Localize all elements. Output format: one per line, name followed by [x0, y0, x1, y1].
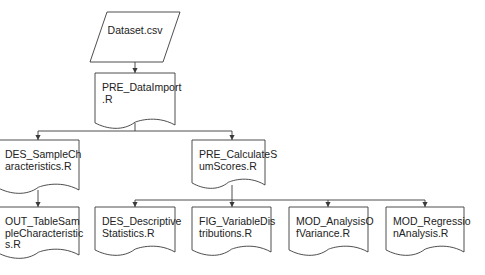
node-label-line: aracteristics.R [5, 160, 72, 172]
node-pre-dataimport: PRE_DataImport.R [95, 73, 181, 128]
arrowhead [422, 202, 427, 207]
arrowhead [35, 202, 40, 207]
node-fig-var: FIG_VariableDistributions.R [192, 207, 275, 255]
arrowhead [35, 135, 40, 140]
node-label-line: PRE_DataImport [102, 81, 181, 93]
node-label-line: OUT_TableSam [5, 215, 80, 227]
arrowhead [325, 202, 330, 207]
node-pre-calc: PRE_CalculateSumScores.R [192, 140, 277, 188]
node-label-line: Statistics.R [102, 227, 155, 239]
node-label-line: nAnalysis.R [393, 227, 449, 239]
node-label-line: .R [102, 93, 113, 105]
node-mod-anova: MOD_AnalysisOfVariance.R [289, 207, 374, 255]
connectors [35, 62, 427, 207]
node-label-line: MOD_AnalysisO [296, 215, 374, 227]
node-mod-reg: MOD_RegressionAnalysis.R [386, 207, 471, 255]
node-label-line: DES_Descriptive [102, 215, 182, 227]
nodes: Dataset.csvPRE_DataImport.RDES_SampleCha… [0, 12, 471, 258]
node-label-line: pleCharacteristic [5, 227, 83, 239]
node-label-line: PRE_CalculateS [199, 148, 277, 160]
node-label-line: FIG_VariableDis [199, 215, 275, 227]
arrowhead [229, 135, 234, 140]
flowchart: Dataset.csvPRE_DataImport.RDES_SampleCha… [0, 0, 485, 275]
node-des-desc: DES_DescriptiveStatistics.R [95, 207, 182, 255]
node-label: Dataset.csv [108, 24, 164, 36]
node-des-sample: DES_SampleCharacteristics.R [0, 140, 82, 193]
node-out-table: OUT_TableSampleCharacteristics.R [0, 207, 83, 258]
node-label-line: fVariance.R [296, 227, 350, 239]
node-label-line: umScores.R [199, 160, 257, 172]
parallelogram-shape [90, 12, 180, 62]
arrowhead [229, 202, 234, 207]
node-label-line: MOD_Regressio [393, 215, 471, 227]
node-dataset: Dataset.csv [90, 12, 180, 62]
arrowhead [132, 202, 137, 207]
node-label-line: tributions.R [199, 227, 253, 239]
arrowhead [132, 68, 137, 73]
node-label-line: s.R [5, 238, 21, 250]
node-label-line: DES_SampleCh [5, 148, 82, 160]
